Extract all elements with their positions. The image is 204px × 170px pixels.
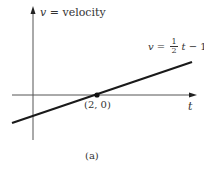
eq-fraction: 1 2 [170, 38, 177, 55]
x-axis-label: t [188, 100, 192, 113]
plot-area [0, 0, 204, 170]
line-equation-label: v = 1 2 t − 1 [148, 38, 204, 55]
velocity-graph: v = velocity v = 1 2 t − 1 t (2, 0) (a) [0, 0, 204, 170]
eq-rest: − 1 [186, 41, 204, 52]
x-axis-arrow-icon [189, 93, 197, 98]
y-axis-text: = velocity [46, 6, 105, 19]
x-intercept-point [94, 92, 99, 97]
figure-caption: (a) [85, 150, 99, 161]
velocity-line [12, 62, 192, 123]
point-label: (2, 0) [84, 99, 111, 110]
eq-denominator: 2 [171, 47, 176, 55]
y-axis-arrow-icon [31, 6, 36, 14]
y-axis-label: v = velocity [40, 6, 106, 19]
eq-equals: = [154, 41, 169, 52]
